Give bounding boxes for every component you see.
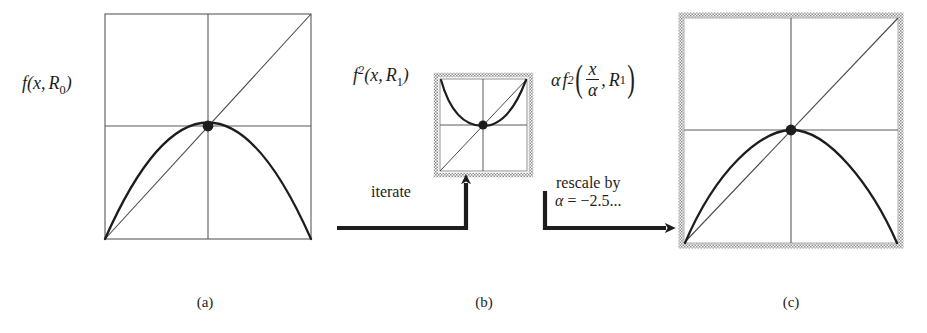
panel-a-label-x: x <box>33 73 41 93</box>
panel-b-fixed-point-dot <box>478 120 487 129</box>
panel-b-label: f2(x,R1) <box>353 66 409 84</box>
panel-c-label-R: R <box>609 71 620 89</box>
panel-a-label-comma: , <box>41 73 46 93</box>
panel-c-label-alpha: α <box>551 71 560 89</box>
panel-c-fixed-point-dot <box>786 125 797 136</box>
panel-c-caption: (c) <box>741 294 841 311</box>
panel-a-caption: (a) <box>155 294 255 311</box>
panel-c-plot <box>681 15 901 246</box>
figure-root: f(x,R0) f2(x,R1) αf2( x α ,R1) iterate r… <box>0 0 927 333</box>
panel-c-label: αf2( x α ,R1) <box>551 60 636 100</box>
panel-c-label-fraction: x α <box>586 60 599 100</box>
rescale-alpha-symbol: α <box>555 192 563 209</box>
panel-c-label-close-paren: ) <box>627 68 635 91</box>
rescale-equals-sign: = <box>567 192 576 209</box>
panel-a-label: f(x,R0) <box>22 74 72 92</box>
panel-c-label-fraction-numerator: x <box>587 60 599 78</box>
panel-b-plot <box>436 75 531 175</box>
panel-a-label-R: R <box>49 73 60 93</box>
rescale-alpha-value: −2.5... <box>580 192 621 209</box>
panel-b-label-R: R <box>386 65 397 85</box>
panel-a-plot <box>105 14 311 239</box>
panel-c-label-comma: , <box>601 71 606 89</box>
rescale-arrow-label-line1: rescale by <box>556 174 620 191</box>
panel-a-fixed-point-dot <box>203 121 214 132</box>
panel-c-label-open-paren: ( <box>575 68 583 91</box>
panel-b-label-x: x <box>370 65 378 85</box>
rescale-arrow-label-line2: α = −2.5... <box>555 192 621 210</box>
iterate-arrow-label: iterate <box>371 183 411 201</box>
panel-b-label-comma: , <box>378 65 383 85</box>
panel-a-label-close: ) <box>66 73 72 93</box>
rescale-arrow-label: rescale by α = −2.5... <box>555 174 621 211</box>
panel-b-caption: (b) <box>434 294 534 311</box>
panel-c-label-fraction-denominator: α <box>586 81 599 99</box>
figure-canvas <box>0 0 927 333</box>
panel-b-label-close: ) <box>403 65 409 85</box>
